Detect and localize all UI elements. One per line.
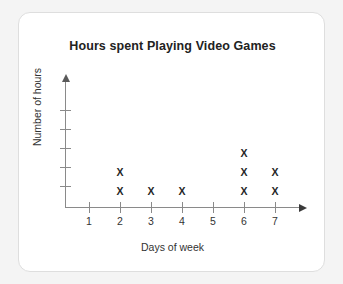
chart-card: Hours spent Playing Video Games 1 2 3 4 … (18, 12, 325, 272)
x-axis-tick-label: 5 (203, 215, 223, 227)
y-axis-tick (60, 148, 71, 149)
data-point-marker: X (236, 167, 252, 178)
x-axis-tick (244, 202, 245, 213)
data-point-marker: X (236, 148, 252, 159)
y-axis-line (65, 81, 66, 207)
x-axis-tick (182, 202, 183, 213)
data-point-marker: X (174, 186, 190, 197)
x-axis-tick-label: 3 (141, 215, 161, 227)
x-axis-tick (89, 202, 90, 213)
y-axis-tick (60, 186, 71, 187)
data-point-marker: X (112, 186, 128, 197)
x-axis-tick-label: 1 (79, 215, 99, 227)
x-axis-tick (275, 202, 276, 213)
data-point-marker: X (143, 186, 159, 197)
y-axis-tick (60, 110, 71, 111)
x-axis-tick-label: 7 (265, 215, 285, 227)
y-axis-arrow-icon (62, 74, 70, 82)
data-point-marker: X (112, 167, 128, 178)
y-axis-tick (60, 129, 71, 130)
y-axis-title: Number of hours (31, 59, 43, 155)
x-axis-tick-label: 2 (110, 215, 130, 227)
x-axis-tick-label: 4 (172, 215, 192, 227)
plot-area: 1 2 3 4 5 6 7 XXXXXXXXX Number of hours … (19, 13, 326, 273)
y-axis-tick (60, 167, 71, 168)
data-point-marker: X (267, 186, 283, 197)
x-axis-tick (151, 202, 152, 213)
x-axis-arrow-icon (299, 204, 307, 212)
x-axis-title: Days of week (19, 241, 326, 253)
data-point-marker: X (236, 186, 252, 197)
x-axis-tick-label: 6 (234, 215, 254, 227)
data-point-marker: X (267, 167, 283, 178)
x-axis-tick (213, 202, 214, 213)
x-axis-tick (120, 202, 121, 213)
